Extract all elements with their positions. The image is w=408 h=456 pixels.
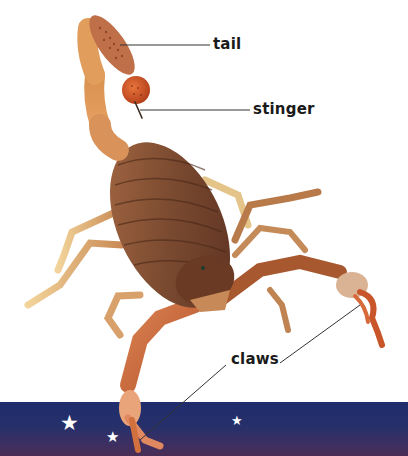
stinger-label: stinger bbox=[253, 102, 315, 117]
tail-label: tail bbox=[213, 37, 241, 52]
claws-leader-line-right bbox=[280, 305, 360, 363]
scorpion-photo bbox=[0, 0, 408, 456]
page: ★ ★ ★ bbox=[0, 0, 408, 456]
claws-leader-line-left bbox=[140, 365, 226, 440]
scorpion-illustration bbox=[0, 0, 408, 456]
claws-label: claws bbox=[231, 352, 279, 367]
